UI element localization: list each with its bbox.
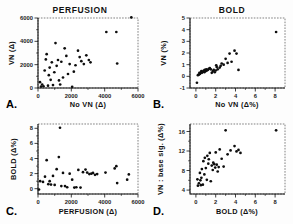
- data-point: [210, 164, 213, 167]
- data-point: [130, 16, 133, 19]
- panel-b-ytick-2: 1: [182, 62, 186, 68]
- data-point: [53, 71, 56, 74]
- data-point: [224, 57, 227, 60]
- data-point: [68, 63, 71, 66]
- panel-b-x-ticks: 0 2 4 6 8: [194, 88, 277, 99]
- data-point: [222, 165, 225, 168]
- data-point: [49, 78, 52, 81]
- data-point: [65, 55, 68, 58]
- data-point: [55, 64, 58, 67]
- panel-a-xtick-2: 4000: [98, 93, 111, 99]
- data-point: [222, 63, 225, 66]
- data-point: [115, 165, 118, 168]
- data-point: [204, 167, 207, 170]
- data-point: [226, 62, 229, 65]
- data-point: [224, 129, 227, 132]
- data-point: [239, 152, 242, 155]
- panel-c-ytick-3: 6: [30, 140, 34, 146]
- data-point: [85, 54, 88, 57]
- panel-c-axes: [38, 124, 138, 194]
- panel-a-xtick-0: 0: [36, 93, 39, 99]
- panel-b-xtick-1: 2: [214, 93, 217, 99]
- panel-a-xtick-3: 6000: [132, 93, 145, 99]
- panel-d-ytick-3: 16: [179, 129, 186, 135]
- data-point: [67, 73, 70, 76]
- data-point: [199, 179, 202, 182]
- data-point: [82, 63, 85, 66]
- data-point: [235, 52, 238, 55]
- panel-c-xtick-2: 4000: [98, 199, 111, 205]
- data-point: [217, 166, 220, 169]
- panel-d: 4 8 12 16 0 2 4 6 8 BOLD (: [147, 112, 293, 224]
- data-point: [215, 163, 218, 166]
- data-point: [216, 170, 219, 173]
- data-point: [71, 85, 74, 88]
- data-point: [220, 157, 223, 160]
- data-point: [214, 166, 217, 169]
- panel-d-y-ticks: 4 8 12 16: [179, 129, 190, 194]
- data-point: [201, 168, 204, 171]
- data-point: [213, 163, 216, 166]
- data-point: [207, 162, 210, 165]
- data-point: [96, 173, 99, 176]
- data-point: [116, 62, 119, 65]
- panel-c-ytick-0: 0: [30, 186, 33, 192]
- data-point: [198, 182, 201, 185]
- data-point: [203, 156, 206, 159]
- data-point: [84, 168, 87, 171]
- data-point: [116, 182, 119, 185]
- data-point: [92, 172, 95, 175]
- data-point: [203, 173, 206, 176]
- data-point: [45, 53, 48, 56]
- data-point: [209, 180, 212, 183]
- data-point: [82, 171, 85, 174]
- data-point: [47, 74, 50, 77]
- data-point: [47, 84, 50, 87]
- panel-a-y-ticks: 0 2000 4000 6000: [20, 15, 38, 91]
- data-point: [199, 172, 202, 175]
- panel-d-xtick-4: 8: [273, 199, 277, 205]
- panel-d-axes: [190, 124, 285, 194]
- data-point: [275, 31, 278, 34]
- panel-c-ytick-4: 8: [30, 125, 34, 131]
- data-point: [54, 42, 57, 45]
- panel-b-ytick-5: 4: [182, 27, 186, 33]
- data-point: [127, 173, 130, 176]
- panel-d-xtick-1: 2: [214, 199, 217, 205]
- data-point: [233, 49, 236, 52]
- data-point: [196, 178, 199, 181]
- data-point: [80, 60, 83, 63]
- panel-b-ytick-1: 0: [182, 73, 185, 79]
- data-point: [219, 64, 222, 67]
- data-point: [57, 156, 60, 159]
- data-point: [71, 178, 74, 181]
- panel-c-xtick-3: 6000: [132, 199, 145, 205]
- data-point: [74, 64, 77, 67]
- panel-a-plot: PERFUSION 0 2000 4000 6000: [0, 0, 146, 112]
- panel-b-title: BOLD: [219, 5, 245, 15]
- panel-b-ylabel: VN (%): [159, 40, 168, 66]
- panel-a-xtick-1: 2000: [65, 93, 78, 99]
- panel-a-ytick-3: 6000: [20, 15, 33, 21]
- panel-b-ytick-6: 5: [182, 15, 186, 21]
- data-point: [52, 84, 55, 87]
- data-point: [197, 184, 200, 187]
- data-point: [218, 148, 221, 151]
- panel-c-plot: 0 2 4 6 8 0 2000 4000 6000 PERFUSION (Δ): [0, 112, 146, 224]
- data-point: [226, 153, 229, 156]
- data-point: [57, 59, 60, 62]
- panel-a: PERFUSION 0 2000 4000 6000: [0, 0, 146, 112]
- panel-d-xtick-0: 0: [194, 199, 197, 205]
- panel-c-x-ticks: 0 2000 4000 6000: [36, 194, 144, 205]
- panel-c-xlabel: PERFUSION (Δ): [59, 207, 118, 216]
- data-point: [207, 158, 210, 161]
- data-point: [75, 186, 78, 189]
- panel-d-plot: 4 8 12 16 0 2 4 6 8 BOLD (: [147, 112, 293, 224]
- data-point: [60, 60, 63, 63]
- data-point: [196, 81, 199, 84]
- panel-c-ylabel: BOLD (Δ%): [9, 138, 18, 180]
- data-point: [63, 47, 66, 50]
- data-point: [89, 61, 92, 64]
- panel-a-ytick-0: 0: [30, 85, 33, 91]
- data-point: [55, 168, 58, 171]
